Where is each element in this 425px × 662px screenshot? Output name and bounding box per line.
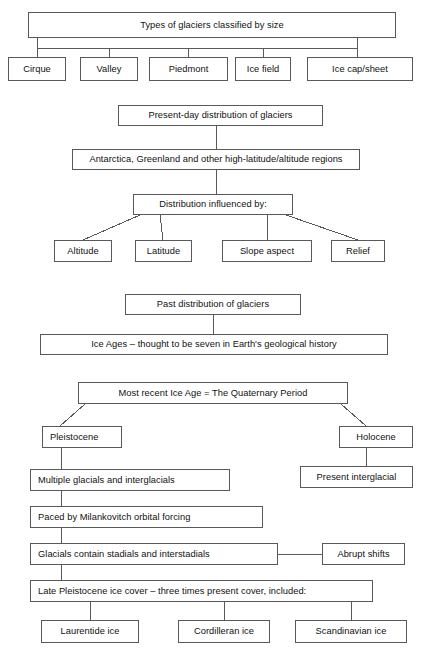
node-slope-aspect: Slope aspect	[222, 240, 312, 262]
node-label-cirque: Cirque	[23, 64, 51, 74]
node-pleistocene: Pleistocene	[42, 426, 122, 448]
node-label-late-pleistocene: Late Pleistocene ice cover – three times…	[38, 586, 306, 596]
node-altitude: Altitude	[54, 240, 112, 262]
node-label-milankovitch: Paced by Milankovitch orbital forcing	[38, 512, 190, 522]
node-title: Types of glaciers classified by size	[28, 12, 396, 38]
node-label-multiple-glacials: Multiple glacials and interglacials	[38, 475, 175, 485]
node-label-ice-cap-sheet: Ice cap/sheet	[332, 64, 388, 74]
connector-title-bus	[37, 38, 357, 48]
connector-quat-to-holocene	[341, 404, 366, 426]
node-present-day: Present-day distribution of glaciers	[118, 105, 323, 126]
node-ice-field: Ice field	[235, 57, 291, 81]
node-holocene: Holocene	[339, 426, 413, 448]
connector-influence-to-altitude	[83, 215, 140, 240]
node-label-altitude: Altitude	[67, 246, 98, 256]
node-label-holocene: Holocene	[356, 432, 396, 442]
node-present-intergl: Present interglacial	[300, 466, 413, 488]
node-ice-cap-sheet: Ice cap/sheet	[307, 57, 413, 81]
node-label-pleistocene: Pleistocene	[50, 432, 99, 442]
node-stadials: Glacials contain stadials and interstadi…	[30, 543, 278, 565]
node-late-pleistocene: Late Pleistocene ice cover – three times…	[30, 580, 373, 602]
node-past-distribution: Past distribution of glaciers	[125, 294, 301, 315]
node-cirque: Cirque	[8, 57, 66, 81]
node-multiple-glacials: Multiple glacials and interglacials	[30, 469, 230, 491]
node-milankovitch: Paced by Milankovitch orbital forcing	[30, 506, 263, 528]
node-label-slope-aspect: Slope aspect	[240, 246, 294, 256]
node-label-laurentide: Laurentide ice	[61, 626, 120, 636]
node-quaternary: Most recent Ice Age = The Quaternary Per…	[78, 382, 348, 404]
node-label-abrupt-shifts: Abrupt shifts	[337, 549, 389, 559]
node-valley: Valley	[80, 57, 138, 81]
node-label-past-distribution: Past distribution of glaciers	[157, 299, 269, 309]
node-label-latitude: Latitude	[147, 246, 180, 256]
node-cordilleran: Cordilleran ice	[178, 620, 270, 643]
node-label-present-day: Present-day distribution of glaciers	[148, 110, 292, 120]
node-influenced-by: Distribution influenced by:	[133, 194, 293, 215]
node-label-title: Types of glaciers classified by size	[140, 20, 284, 30]
node-label-cordilleran: Cordilleran ice	[194, 626, 254, 636]
node-piedmont: Piedmont	[149, 57, 228, 81]
connector-influence-to-latitude	[160, 215, 163, 240]
node-relief: Relief	[331, 240, 385, 262]
node-label-piedmont: Piedmont	[169, 64, 209, 74]
node-label-valley: Valley	[97, 64, 122, 74]
node-label-ice-ages: Ice Ages – thought to be seven in Earth'…	[91, 339, 337, 349]
node-label-ice-field: Ice field	[247, 64, 279, 74]
connector-influence-to-relief	[286, 215, 358, 240]
glacier-flowchart: Types of glaciers classified by sizeCirq…	[0, 0, 425, 662]
node-label-present-intergl: Present interglacial	[317, 472, 397, 482]
node-regions: Antarctica, Greenland and other high-lat…	[72, 149, 360, 170]
node-label-quaternary: Most recent Ice Age = The Quaternary Per…	[119, 388, 308, 398]
connector-quat-to-pleistocene	[60, 404, 85, 426]
node-label-influenced-by: Distribution influenced by:	[159, 199, 267, 209]
node-scandinavian: Scandinavian ice	[295, 620, 407, 643]
node-label-stadials: Glacials contain stadials and interstadi…	[38, 549, 210, 559]
node-ice-ages: Ice Ages – thought to be seven in Earth'…	[40, 334, 388, 355]
node-label-scandinavian: Scandinavian ice	[316, 626, 387, 636]
node-laurentide: Laurentide ice	[41, 620, 139, 643]
node-latitude: Latitude	[135, 240, 192, 262]
node-label-regions: Antarctica, Greenland and other high-lat…	[89, 154, 342, 164]
node-label-relief: Relief	[346, 246, 370, 256]
node-abrupt-shifts: Abrupt shifts	[322, 543, 405, 565]
